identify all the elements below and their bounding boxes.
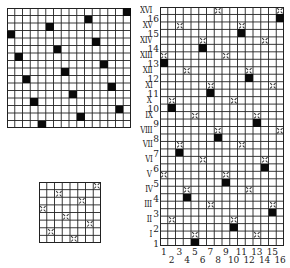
cross-mark-icon — [62, 213, 70, 221]
filled-cell — [245, 74, 253, 81]
cross-mark-icon — [269, 201, 277, 208]
column-label-even: 2 — [164, 256, 180, 265]
cross-mark-icon — [168, 97, 176, 104]
filled-cell — [23, 76, 31, 84]
cross-mark-icon — [253, 231, 261, 238]
right-labeled-grid — [160, 7, 284, 246]
row-label-roman: VI — [145, 155, 152, 164]
row-label-number: 12 — [148, 75, 159, 84]
row-label-roman: II — [147, 215, 152, 224]
filled-cell — [15, 53, 23, 61]
cross-mark-icon — [207, 201, 215, 208]
filled-cell — [92, 38, 100, 46]
filled-cell — [222, 179, 230, 186]
column-label-even: 16 — [272, 256, 288, 265]
filled-cell — [38, 121, 46, 129]
cross-mark-icon — [222, 171, 230, 178]
column-label-even: 12 — [241, 256, 257, 265]
filled-cell — [261, 164, 269, 171]
cross-mark-icon — [160, 52, 168, 59]
cross-mark-icon — [245, 67, 253, 74]
row-label-number: 6 — [153, 165, 159, 174]
column-label-even: 4 — [179, 256, 195, 265]
row-label-number: 3 — [153, 210, 159, 219]
row-label-roman: IV — [145, 185, 152, 194]
filled-cell — [207, 89, 215, 96]
cross-mark-icon — [230, 97, 238, 104]
row-label-roman: III — [145, 200, 152, 209]
cross-mark-icon — [207, 82, 215, 89]
filled-cell — [100, 61, 108, 69]
cross-mark-icon — [199, 37, 207, 44]
filled-cell — [7, 31, 15, 39]
cross-mark-icon — [86, 220, 94, 228]
grid-lines — [8, 9, 130, 127]
row-label-roman: VIII — [140, 126, 152, 135]
cross-mark-icon — [93, 182, 101, 190]
row-label-number: 7 — [153, 150, 159, 159]
row-label-number: 2 — [153, 225, 159, 234]
cross-mark-icon — [191, 112, 199, 119]
cross-mark-icon — [183, 186, 191, 193]
cross-mark-icon — [253, 112, 261, 119]
filled-cell — [30, 98, 38, 106]
cross-mark-icon — [176, 141, 184, 148]
row-label-number: 16 — [148, 15, 159, 24]
filled-cell — [199, 44, 207, 51]
row-label-number: 9 — [153, 120, 159, 129]
cross-mark-icon — [214, 127, 222, 134]
cross-mark-icon — [183, 67, 191, 74]
cross-mark-icon — [245, 186, 253, 193]
cross-mark-icon — [276, 127, 284, 134]
filled-cell — [116, 106, 124, 114]
column-label-even: 10 — [226, 256, 242, 265]
column-label-even: 8 — [210, 256, 226, 265]
cross-mark-icon — [199, 156, 207, 163]
cross-mark-icon — [55, 190, 63, 198]
filled-cell — [69, 91, 77, 99]
filled-cell — [108, 83, 116, 91]
grid-pattern-figure: XVIXVXIVXIIIXIIXIXIXVIIIVIIVIVIVIIIIII16… — [0, 0, 290, 268]
cross-mark-icon — [47, 228, 55, 236]
filled-cell — [160, 59, 168, 66]
cross-mark-icon — [238, 141, 246, 148]
cross-mark-icon — [160, 171, 168, 178]
filled-cell — [238, 29, 246, 36]
row-label-number: 10 — [148, 105, 159, 114]
row-label-number: 13 — [148, 60, 159, 69]
top-left-grid — [7, 8, 131, 128]
filled-cell — [46, 23, 54, 31]
filled-cell — [123, 8, 131, 16]
row-label-number: 15 — [148, 30, 159, 39]
cross-mark-icon — [261, 37, 269, 44]
cross-mark-icon — [222, 52, 230, 59]
cross-mark-icon — [168, 216, 176, 223]
cross-mark-icon — [214, 7, 222, 14]
filled-cell — [191, 239, 199, 246]
filled-cell — [54, 46, 62, 54]
bottom-left-grid — [39, 182, 101, 243]
cross-mark-icon — [78, 197, 86, 205]
filled-cell — [230, 224, 238, 231]
row-label-number: 11 — [148, 90, 159, 99]
filled-cell — [183, 194, 191, 201]
cross-mark-icon — [70, 235, 78, 243]
row-label-roman: VII — [142, 140, 152, 149]
row-label-number: 14 — [148, 45, 159, 54]
cross-mark-icon — [39, 205, 47, 213]
cross-mark-icon — [230, 216, 238, 223]
filled-cell — [276, 14, 284, 21]
column-label-even: 14 — [257, 256, 273, 265]
filled-cell — [85, 16, 93, 24]
cross-mark-icon — [269, 82, 277, 89]
cross-mark-icon — [261, 156, 269, 163]
row-label-number: 4 — [153, 195, 159, 204]
cross-mark-icon — [176, 22, 184, 29]
row-label-number: 5 — [153, 180, 159, 189]
filled-cell — [77, 113, 85, 121]
filled-cell — [253, 119, 261, 126]
cross-mark-icon — [276, 7, 284, 14]
cross-mark-icon — [238, 22, 246, 29]
filled-cell — [214, 134, 222, 141]
column-label-even: 6 — [195, 256, 211, 265]
